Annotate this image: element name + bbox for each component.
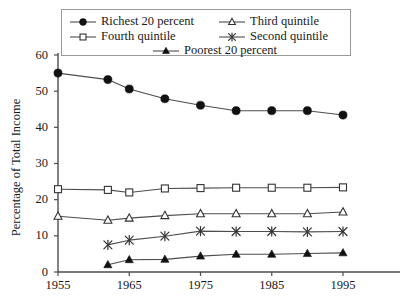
chart-legend: Richest 20 percent Third quintile Fourth… bbox=[61, 9, 351, 56]
chart-series-third-quintile bbox=[54, 208, 347, 224]
chart-series-poorest-20-percent bbox=[104, 249, 347, 268]
chart-series-second-quintile bbox=[104, 227, 347, 250]
legend-row-2: Fourth quintile bbox=[68, 29, 176, 44]
legend-label-poorest-20-percent: Poorest 20 percent bbox=[181, 44, 277, 57]
y-tick-label: 60 bbox=[8, 49, 48, 62]
y-tick-label: 40 bbox=[8, 121, 48, 134]
legend-row-2b: Second quintile bbox=[217, 29, 328, 44]
legend-row-3: Poorest 20 percent bbox=[151, 43, 277, 58]
y-tick-label: 20 bbox=[8, 193, 48, 206]
chart-figure: Percentage of Total Income 0102030405060… bbox=[0, 0, 415, 307]
y-tick-label: 10 bbox=[8, 229, 48, 242]
legend-entry-second-quintile: Second quintile bbox=[217, 30, 328, 43]
chart-series-richest-20-percent bbox=[54, 69, 347, 119]
legend-entry-poorest-20-percent: Poorest 20 percent bbox=[151, 44, 277, 57]
filled-triangle-icon bbox=[151, 45, 181, 57]
x-tick-label: 1955 bbox=[33, 279, 83, 292]
open-triangle-icon bbox=[217, 16, 247, 28]
legend-label-fourth-quintile: Fourth quintile bbox=[98, 30, 176, 43]
filled-circle-icon bbox=[68, 16, 98, 28]
legend-entry-third-quintile: Third quintile bbox=[217, 15, 319, 28]
legend-entry-fourth-quintile: Fourth quintile bbox=[68, 30, 176, 43]
open-square-icon bbox=[68, 31, 98, 43]
x-tick-label: 1965 bbox=[104, 279, 154, 292]
x-tick-label: 1985 bbox=[247, 279, 297, 292]
chart-series-fourth-quintile bbox=[55, 184, 347, 196]
legend-label-richest-20-percent: Richest 20 percent bbox=[98, 15, 194, 28]
legend-row-1: Richest 20 percent bbox=[68, 14, 194, 29]
y-tick-label: 0 bbox=[8, 266, 48, 279]
legend-label-second-quintile: Second quintile bbox=[247, 30, 328, 43]
y-tick-label: 30 bbox=[8, 157, 48, 170]
x-tick-label: 1975 bbox=[176, 279, 226, 292]
legend-row-1b: Third quintile bbox=[217, 14, 319, 29]
legend-label-third-quintile: Third quintile bbox=[247, 15, 319, 28]
legend-entry-richest-20-percent: Richest 20 percent bbox=[68, 15, 194, 28]
x-tick-label: 1995 bbox=[318, 279, 368, 292]
y-tick-label: 50 bbox=[8, 85, 48, 98]
asterisk-icon bbox=[217, 31, 247, 43]
